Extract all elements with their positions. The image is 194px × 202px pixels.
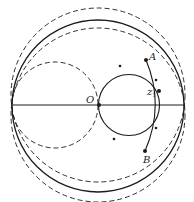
label-B: B — [142, 154, 150, 165]
point-A — [144, 58, 148, 62]
label-O: O — [86, 94, 94, 105]
arrow-marker-bottom — [113, 138, 116, 141]
lower-dashed-circle — [11, 8, 185, 182]
upper-dashed-circle — [11, 28, 185, 202]
label-A: A — [148, 51, 156, 62]
point-z1 — [157, 89, 161, 93]
arrow-marker-top — [119, 65, 122, 68]
diagram-canvas: A B O z1 — [0, 0, 194, 202]
point-O — [97, 103, 101, 107]
point-B — [143, 149, 147, 153]
arrow-marker-right-upper — [155, 79, 158, 82]
arrow-marker-right-lower — [155, 127, 158, 130]
